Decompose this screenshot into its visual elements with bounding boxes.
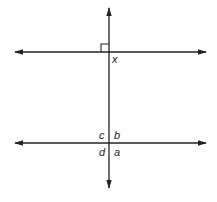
angle-label-a: a (114, 146, 120, 158)
angle-label-b: b (114, 129, 120, 141)
geometry-diagram: x c b d a (0, 0, 217, 202)
angle-label-c: c (99, 129, 105, 141)
angle-label-d: d (99, 146, 106, 158)
angle-label-x: x (111, 53, 118, 65)
right-angle-marker (101, 44, 109, 52)
